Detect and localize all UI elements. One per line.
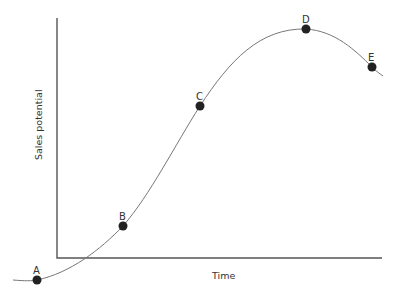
point-c	[196, 102, 205, 111]
axes	[57, 18, 382, 258]
y-axis-label: Sales potential	[33, 89, 44, 160]
point-a	[33, 276, 42, 285]
point-b	[119, 222, 128, 231]
label-a: A	[33, 265, 40, 276]
x-axis-label: Time	[211, 270, 235, 281]
label-b: B	[119, 211, 126, 222]
point-d	[302, 25, 311, 34]
sales-curve	[13, 29, 383, 281]
label-e: E	[368, 52, 374, 63]
point-e	[368, 63, 377, 72]
label-d: D	[302, 14, 310, 25]
label-c: C	[196, 91, 203, 102]
sales-potential-diagram: A B C D E Time Sales potential	[0, 0, 403, 299]
